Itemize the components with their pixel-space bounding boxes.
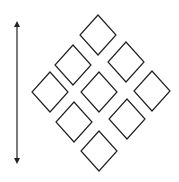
diamond-shape bbox=[109, 99, 145, 139]
diamond-shape bbox=[108, 42, 144, 82]
diamond-shape bbox=[32, 72, 68, 112]
diamond-shape bbox=[81, 131, 117, 171]
diamond-shape bbox=[81, 72, 117, 112]
diamond-grid-diagram bbox=[0, 0, 179, 182]
diamond-shape bbox=[80, 15, 116, 55]
diamond-shape bbox=[134, 71, 170, 111]
diamond-shape bbox=[56, 102, 92, 142]
diamond-shape bbox=[55, 45, 91, 85]
diamond-group bbox=[32, 15, 170, 171]
